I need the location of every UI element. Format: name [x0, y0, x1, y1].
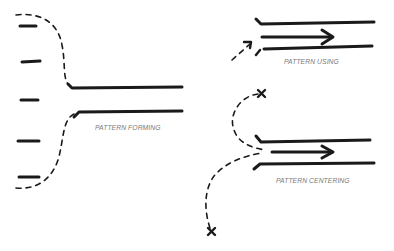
- label-pattern-centering: PATTERN CENTERING: [276, 176, 350, 185]
- pattern-centering-group: [206, 90, 374, 235]
- pattern-forming-group: [16, 14, 182, 188]
- channel-line-bottom: [264, 46, 372, 49]
- label-pattern-using: PATTERN USING: [284, 57, 339, 66]
- channel-line-top: [256, 19, 374, 24]
- channel-line-top: [68, 84, 182, 88]
- dash-mark: [256, 50, 260, 55]
- diagram-svg: [0, 0, 394, 251]
- dashed-path-bottom: [206, 153, 262, 228]
- label-pattern-forming: PATTERN FORMING: [95, 123, 161, 132]
- scatter-mark: [22, 61, 40, 62]
- diagram-canvas: PATTERN FORMING PATTERN USING PATTERN CE…: [0, 0, 394, 251]
- x-mark-icon: [208, 228, 215, 235]
- pattern-using-group: [232, 19, 374, 60]
- dashed-arrow-shaft: [232, 44, 250, 60]
- channel-line-bottom: [74, 111, 182, 117]
- x-mark-icon: [258, 90, 265, 97]
- channel-line-top: [256, 136, 370, 142]
- channel-line-bottom: [254, 163, 374, 169]
